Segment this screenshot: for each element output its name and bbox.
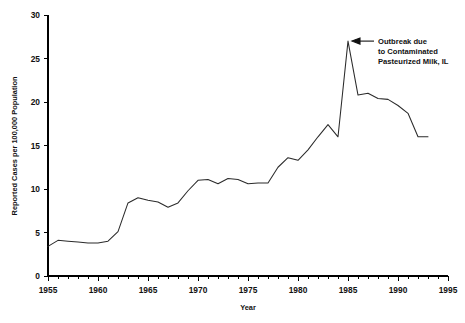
salmonellosis-incidence-chart: 051015202530 195519601965197019751980198… [0,0,465,323]
x-axis-title: Year [240,303,256,312]
x-tick-label: 1955 [39,285,58,295]
outbreak-annotation: Outbreak due to Contaminated Pasteurized… [352,37,449,66]
x-tick-label: 1975 [239,285,258,295]
annotation-line-1: Outbreak due [378,37,427,46]
x-tick-label: 1995 [439,285,458,295]
x-tick-label: 1980 [289,285,308,295]
y-axis-title: Reported Cases per 100,000 Population [10,76,19,215]
annotation-line-2: to Contaminated [378,47,438,56]
y-tick-label: 10 [31,184,41,194]
left-arrow-icon [352,38,360,44]
x-tick-label: 1965 [139,285,158,295]
x-tick-label: 1970 [189,285,208,295]
y-tick-label: 0 [35,271,40,281]
x-tick-label: 1960 [89,285,108,295]
x-tick-label: 1985 [339,285,358,295]
y-axis-ticks: 051015202530 [31,10,48,281]
y-tick-label: 5 [35,228,40,238]
y-tick-label: 20 [31,97,41,107]
y-tick-label: 15 [31,141,41,151]
annotation-line-3: Pasteurized Milk, IL [378,57,449,66]
x-axis-ticks: 195519601965197019751980198519901995 [39,276,458,295]
series-line-reported-cases [48,41,428,246]
data-series-group [48,41,428,246]
chart-canvas: 051015202530 195519601965197019751980198… [0,0,465,323]
y-tick-label: 25 [31,54,41,64]
y-tick-label: 30 [31,10,41,20]
x-tick-label: 1990 [389,285,408,295]
